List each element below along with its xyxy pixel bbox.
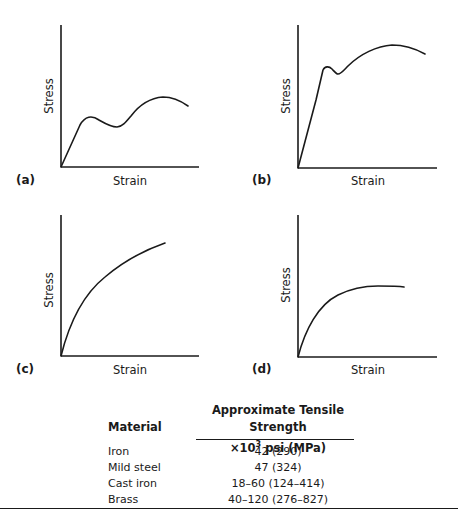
table-row: Cast iron 18–60 (124–414) — [108, 476, 358, 492]
panel-c-ylabel: Stress — [42, 272, 56, 307]
panel-c-curve — [61, 243, 165, 356]
panel-a-label: (a) — [16, 173, 35, 187]
table-row: Iron 42 (290) — [108, 444, 358, 460]
material-cell: Brass — [108, 492, 138, 508]
panel-b-xlabel: Strain — [351, 174, 385, 188]
panel-b-label: (b) — [252, 173, 272, 187]
panel-a-ylabel: Stress — [42, 78, 56, 113]
material-cell: Iron — [108, 444, 129, 460]
panel-c-label: (c) — [16, 362, 34, 376]
panel-a: Stress Strain (a) — [16, 25, 199, 188]
panel-b-curve — [298, 45, 425, 168]
panel-d-xlabel: Strain — [351, 363, 385, 377]
panel-c: Stress Strain (c) — [16, 215, 199, 377]
panel-d-label: (d) — [252, 362, 272, 376]
strength-cell: 47 (324) — [198, 460, 358, 476]
panel-c-xlabel: Strain — [113, 363, 147, 377]
bottom-rule — [0, 508, 458, 509]
panel-d-ylabel: Stress — [279, 267, 293, 302]
panel-a-xlabel: Strain — [113, 174, 147, 188]
panel-d-curve — [298, 286, 404, 357]
material-cell: Mild steel — [108, 460, 161, 476]
table-row: Brass 40–120 (276–827) — [108, 492, 358, 508]
header-rule — [196, 439, 354, 440]
table-row: Mild steel 47 (324) — [108, 460, 358, 476]
strength-cell: 42 (290) — [198, 444, 358, 460]
strength-cell: 40–120 (276–827) — [198, 492, 358, 508]
panel-a-curve — [61, 97, 188, 167]
panel-b-ylabel: Stress — [279, 78, 293, 113]
panel-b: Stress Strain (b) — [252, 25, 437, 188]
material-cell: Cast iron — [108, 476, 157, 492]
header-material: Material — [108, 420, 162, 434]
header-strength-line1: Approximate Tensile Strength — [198, 402, 358, 436]
strength-cell: 18–60 (124–414) — [198, 476, 358, 492]
table-body: Iron 42 (290) Mild steel 47 (324) Cast i… — [108, 444, 358, 508]
panel-d: Stress Strain (d) — [252, 215, 437, 377]
